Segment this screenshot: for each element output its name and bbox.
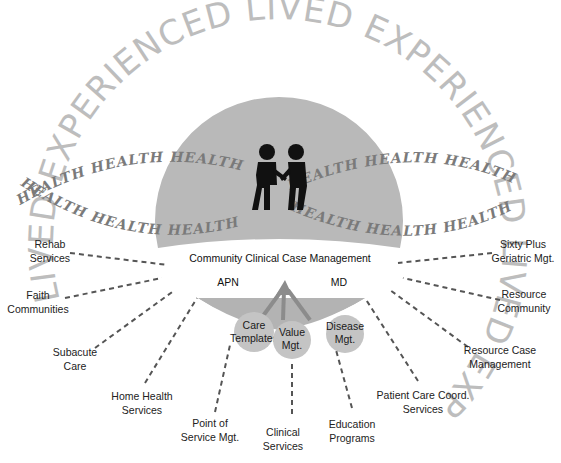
role-md: MD	[331, 276, 348, 288]
svg-text:Value: Value	[279, 326, 305, 338]
role-apn: APN	[217, 276, 239, 288]
svg-text:Services: Services	[122, 404, 162, 416]
svg-text:Services: Services	[30, 252, 70, 264]
svg-text:Clinical: Clinical	[266, 426, 300, 438]
case-management-diagram: LIVED EXPERIENCED LIVED EXPERIENCED LIVE…	[0, 0, 561, 463]
svg-text:Programs: Programs	[329, 432, 375, 444]
svg-text:Care: Care	[64, 360, 87, 372]
svg-text:Rehab: Rehab	[35, 238, 66, 250]
label-subacute-care: Subacute Care	[53, 346, 98, 372]
core-circle-disease-mgt: Disease Mgt.	[326, 315, 364, 353]
svg-text:Home Health: Home Health	[111, 390, 172, 402]
svg-text:Resource Case: Resource Case	[464, 344, 537, 356]
label-clinical-services: Clinical Services	[263, 426, 303, 452]
core-circle-value-mgt: Value Mgt.	[273, 321, 311, 359]
svg-text:Resource: Resource	[502, 288, 547, 300]
svg-text:Templates: Templates	[230, 332, 278, 344]
svg-text:Geriatric Mgt.: Geriatric Mgt.	[491, 252, 554, 264]
label-point-of-service-mgt: Point of Service Mgt.	[181, 417, 239, 443]
svg-text:Patient Care Coord.: Patient Care Coord.	[377, 389, 470, 401]
svg-text:Communities: Communities	[7, 303, 68, 315]
label-home-health-services: Home Health Services	[111, 390, 172, 416]
label-education-programs: Education Programs	[329, 418, 376, 444]
center-title: Community Clinical Case Management	[189, 252, 371, 264]
svg-text:Sixty Plus: Sixty Plus	[500, 238, 546, 250]
svg-text:Point of: Point of	[192, 417, 228, 429]
svg-text:Service Mgt.: Service Mgt.	[181, 431, 239, 443]
svg-text:Care: Care	[243, 319, 266, 331]
svg-text:Services: Services	[263, 440, 303, 452]
svg-text:Faith: Faith	[26, 289, 50, 301]
svg-text:Community: Community	[497, 302, 551, 314]
svg-text:Mgt.: Mgt.	[282, 339, 302, 351]
svg-text:Subacute: Subacute	[53, 346, 98, 358]
svg-text:Education: Education	[329, 418, 376, 430]
svg-text:Management: Management	[469, 358, 530, 370]
svg-text:Mgt.: Mgt.	[335, 333, 355, 345]
svg-text:Services: Services	[403, 403, 443, 415]
svg-text:Disease: Disease	[326, 320, 364, 332]
